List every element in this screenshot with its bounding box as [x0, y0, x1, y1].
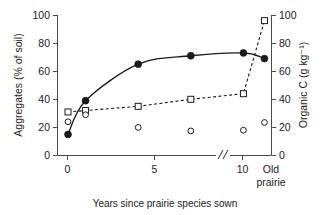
series-line-0 [68, 53, 264, 135]
data-point-filled-circle [187, 52, 194, 59]
axis-break-icon [216, 150, 230, 160]
data-point-open-square [240, 91, 246, 97]
x-axis-tick-labels: 0 5 10 [65, 163, 249, 175]
y-tick-label: 20 [38, 121, 50, 133]
x-axis-title: Years since prairie species sown [93, 198, 238, 209]
plot-frame [58, 15, 272, 156]
y-axis-tick-labels-left: 100 80 60 40 20 0 [32, 9, 50, 161]
x-tick-label: 5 [152, 163, 158, 175]
y2-tick-label: 60 [279, 65, 291, 77]
y2-tick-label: 100 [279, 9, 297, 21]
y-axis-ticks-left [53, 16, 58, 156]
y-tick-label: 60 [38, 65, 50, 77]
x-tick-label: 0 [65, 163, 71, 175]
y-axis-title-left: Aggregates (% of soil) [12, 33, 24, 136]
series-line-1 [68, 21, 264, 112]
y-axis-title-right: Organic C (g kg⁻¹) [297, 42, 309, 129]
y-axis-ticks-right [272, 16, 277, 156]
chart-svg: 100 80 60 40 20 0 100 80 60 40 20 0 [0, 0, 327, 215]
old-prairie-line1: Old [263, 163, 280, 175]
y-tick-label: 0 [44, 149, 50, 161]
y2-tick-label: 40 [279, 93, 291, 105]
series-lines [68, 21, 264, 135]
x-tick-label: 10 [237, 163, 249, 175]
data-point-open-square [135, 103, 141, 109]
old-prairie-line2: prairie [256, 176, 285, 188]
data-point-open-circle [241, 127, 247, 133]
y-tick-label: 80 [38, 37, 50, 49]
data-point-filled-circle [65, 131, 72, 138]
data-point-open-square [65, 109, 71, 115]
data-point-filled-circle [261, 55, 268, 62]
data-point-open-circle [65, 119, 71, 125]
data-point-open-circle [188, 128, 194, 134]
data-point-filled-circle [82, 97, 89, 104]
data-point-open-circle [83, 112, 89, 118]
data-point-filled-circle [135, 61, 142, 68]
data-point-filled-circle [240, 50, 247, 57]
data-point-open-circle [262, 120, 268, 126]
y-tick-label: 40 [38, 93, 50, 105]
chart-figure: 100 80 60 40 20 0 100 80 60 40 20 0 [0, 0, 327, 215]
y2-tick-label: 20 [279, 121, 291, 133]
y2-tick-label: 80 [279, 37, 291, 49]
x-tick-label-old-prairie: Old prairie [256, 163, 285, 188]
data-point-open-square [188, 96, 194, 102]
y2-tick-label: 0 [279, 149, 285, 161]
data-point-open-circle [135, 125, 141, 131]
y-axis-tick-labels-right: 100 80 60 40 20 0 [279, 9, 297, 161]
data-point-open-square [261, 18, 267, 24]
y-tick-label: 100 [32, 9, 50, 21]
series-markers [65, 18, 268, 138]
